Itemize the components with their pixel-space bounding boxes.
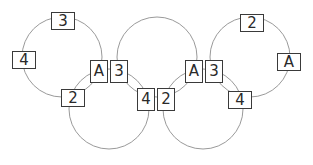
label-box: 2 <box>240 14 264 32</box>
ring-4 <box>163 69 243 149</box>
label-box: A <box>277 53 301 71</box>
label-box: A <box>90 60 108 83</box>
ring-3 <box>117 17 197 97</box>
label-box: A <box>185 60 203 83</box>
label-box: 3 <box>51 12 75 30</box>
label-box: 2 <box>157 88 175 111</box>
rings-layer <box>0 0 313 165</box>
label-box: 3 <box>110 60 128 83</box>
label-box: 4 <box>228 91 252 109</box>
label-box: 4 <box>12 51 36 69</box>
label-box: 4 <box>137 88 155 111</box>
label-box: 2 <box>61 89 85 107</box>
rings-diagram: 3 4 A 3 2 4 2 A 3 2 A 4 <box>0 0 313 165</box>
label-box: 3 <box>205 60 223 83</box>
